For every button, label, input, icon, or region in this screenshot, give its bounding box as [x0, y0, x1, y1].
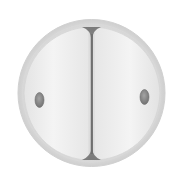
- embryo-figure: Two-cell embryo: [0, 0, 183, 179]
- right-blastomere: [94, 27, 160, 160]
- embryo-illustration: [0, 0, 183, 179]
- right-nucleus: [140, 90, 149, 105]
- left-nucleus: [35, 93, 44, 108]
